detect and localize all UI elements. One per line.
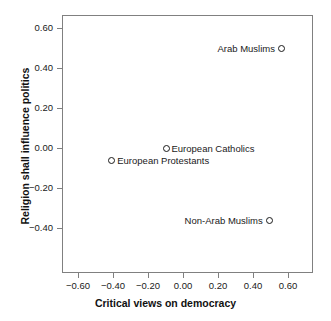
data-point-label: European Protestants — [117, 155, 209, 166]
data-point-label: Non-Arab Muslims — [185, 215, 263, 226]
y-tick-mark — [57, 68, 62, 69]
x-tick-mark — [218, 273, 219, 278]
data-point-label: Arab Muslims — [217, 43, 275, 54]
y-tick-mark — [57, 108, 62, 109]
y-axis-title: Religion shall influence politics — [19, 17, 31, 275]
x-tick-label: 0.00 — [163, 280, 203, 291]
data-point-marker — [278, 45, 285, 52]
x-tick-label: 0.20 — [198, 280, 238, 291]
scatter-plot-figure: −0.60−0.40−0.200.000.200.400.60 0.600.40… — [0, 0, 331, 321]
data-point-marker — [163, 145, 170, 152]
y-tick-mark — [57, 148, 62, 149]
x-tick-label: −0.20 — [128, 280, 168, 291]
y-tick-mark — [57, 228, 62, 229]
y-tick-mark — [57, 188, 62, 189]
x-tick-mark — [288, 273, 289, 278]
x-tick-mark — [253, 273, 254, 278]
x-tick-label: −0.40 — [93, 280, 133, 291]
x-tick-mark — [148, 273, 149, 278]
y-tick-mark — [57, 28, 62, 29]
x-tick-label: 0.60 — [268, 280, 308, 291]
data-point-marker — [266, 217, 273, 224]
data-point-label: European Catholics — [172, 143, 255, 154]
x-tick-label: 0.40 — [233, 280, 273, 291]
x-axis-title: Critical views on democracy — [0, 297, 331, 309]
x-tick-mark — [78, 273, 79, 278]
x-tick-mark — [183, 273, 184, 278]
x-tick-mark — [113, 273, 114, 278]
x-tick-label: −0.60 — [58, 280, 98, 291]
